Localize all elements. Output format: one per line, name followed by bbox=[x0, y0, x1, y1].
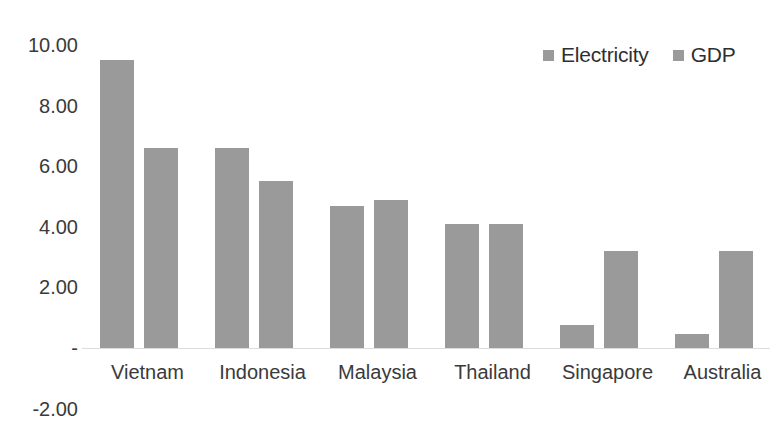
y-axis: 10.008.006.004.002.00--2.00 bbox=[0, 0, 78, 433]
bar-gdp[interactable] bbox=[144, 148, 178, 348]
y-axis-tick-label: 4.00 bbox=[6, 217, 78, 237]
y-axis-tick-label: 6.00 bbox=[6, 156, 78, 176]
y-axis-tick-label: - bbox=[6, 338, 78, 358]
bar-electricity[interactable] bbox=[560, 325, 594, 348]
bar-chart: Electricity GDP 10.008.006.004.002.00--2… bbox=[0, 0, 778, 433]
bar-gdp[interactable] bbox=[604, 251, 638, 348]
bar-electricity[interactable] bbox=[675, 334, 709, 348]
bar-electricity[interactable] bbox=[330, 206, 364, 348]
bar-electricity[interactable] bbox=[100, 60, 134, 348]
bar-gdp[interactable] bbox=[374, 200, 408, 348]
bar-gdp[interactable] bbox=[259, 181, 293, 348]
plot-area: VietnamIndonesiaMalaysiaThailandSingapor… bbox=[82, 0, 774, 433]
y-axis-tick-label: 2.00 bbox=[6, 277, 78, 297]
x-axis-category-label: Australia bbox=[648, 362, 778, 382]
bar-electricity[interactable] bbox=[215, 148, 249, 348]
bar-gdp[interactable] bbox=[489, 224, 523, 348]
y-axis-tick-label: 8.00 bbox=[6, 96, 78, 116]
bar-gdp[interactable] bbox=[719, 251, 753, 348]
y-axis-tick-label: -2.00 bbox=[6, 399, 78, 419]
y-axis-tick-label: 10.00 bbox=[6, 35, 78, 55]
bar-electricity[interactable] bbox=[445, 224, 479, 348]
